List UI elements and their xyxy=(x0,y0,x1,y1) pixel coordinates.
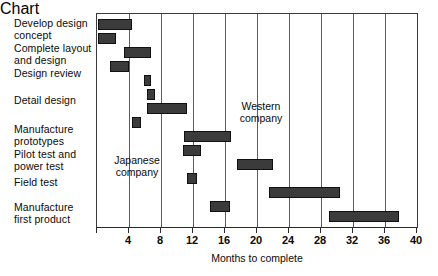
gantt-bar-manufacture-prototypes-japanese xyxy=(132,117,141,128)
task-label-field-test: Field test xyxy=(14,177,100,189)
tick-label-28: 28 xyxy=(314,234,326,246)
gridline-12 xyxy=(193,14,194,227)
gantt-bar-detail-design-western xyxy=(147,103,187,114)
tick-label-16: 16 xyxy=(218,234,230,246)
tick-mark-40 xyxy=(416,228,417,233)
gridline-36 xyxy=(385,14,386,227)
tick-mark-16 xyxy=(224,228,225,233)
gantt-bar-field-test-japanese xyxy=(187,173,197,184)
tick-label-24: 24 xyxy=(282,234,294,246)
tick-label-36: 36 xyxy=(378,234,390,246)
tick-mark-36 xyxy=(384,228,385,233)
gridline-8 xyxy=(161,14,162,227)
x-axis-title: Months to complete xyxy=(96,252,418,264)
gantt-bar-manufacture-first-product-western xyxy=(329,211,399,222)
task-label-manufacture-first-product: Manufacture first product xyxy=(14,202,100,225)
gantt-bar-design-review-japanese xyxy=(110,61,129,72)
gantt-chart: Develop design concept Complete layout a… xyxy=(0,0,438,276)
x-axis: 481216202428323640 Months to complete xyxy=(96,228,418,276)
gridline-4 xyxy=(129,14,130,227)
tick-mark-24 xyxy=(288,228,289,233)
tick-mark-20 xyxy=(256,228,257,233)
task-label-complete-layout-and-design: Complete layout and design xyxy=(14,43,100,66)
gantt-bar-complete-layout-and-design-japanese xyxy=(124,47,151,58)
tick-mark-8 xyxy=(160,228,161,233)
task-label-pilot-test-and-power-test: Pilot test and power test xyxy=(14,149,100,172)
tick-mark-0 xyxy=(96,228,97,233)
gridline-16 xyxy=(225,14,226,227)
gantt-bar-field-test-western xyxy=(269,187,340,198)
tick-label-40: 40 xyxy=(410,234,422,246)
tick-mark-28 xyxy=(320,228,321,233)
gantt-bar-manufacture-prototypes-western xyxy=(184,131,231,142)
gantt-bar-pilot-test-japanese xyxy=(183,145,201,156)
annotation-western-company: Western company xyxy=(228,100,294,124)
gantt-bar-design-review-western xyxy=(144,75,151,86)
task-label-manufacture-prototypes: Manufacture prototypes xyxy=(14,124,100,147)
plot-area: Japanese company Western company xyxy=(96,13,418,228)
tick-mark-12 xyxy=(192,228,193,233)
gantt-bar-detail-design-japanese xyxy=(147,89,155,100)
task-label-column: Develop design concept Complete layout a… xyxy=(0,0,97,276)
tick-mark-32 xyxy=(352,228,353,233)
annotation-japanese-company: Japanese company xyxy=(101,154,173,178)
tick-mark-4 xyxy=(128,228,129,233)
task-label-develop-design-concept: Develop design concept xyxy=(14,18,100,41)
tick-label-12: 12 xyxy=(186,234,198,246)
tick-label-8: 8 xyxy=(157,234,163,246)
task-label-detail-design: Detail design xyxy=(14,95,100,107)
gantt-bar-develop-design-concept-japanese xyxy=(98,19,132,30)
tick-label-20: 20 xyxy=(250,234,262,246)
task-label-design-review: Design review xyxy=(14,68,100,80)
tick-label-32: 32 xyxy=(346,234,358,246)
gantt-bar-develop-design-concept-western xyxy=(98,33,116,44)
gantt-bar-pilot-test-western xyxy=(237,159,273,170)
tick-label-4: 4 xyxy=(125,234,131,246)
gridline-32 xyxy=(353,14,354,227)
gantt-bar-manufacture-first-product-japanese xyxy=(210,201,230,212)
